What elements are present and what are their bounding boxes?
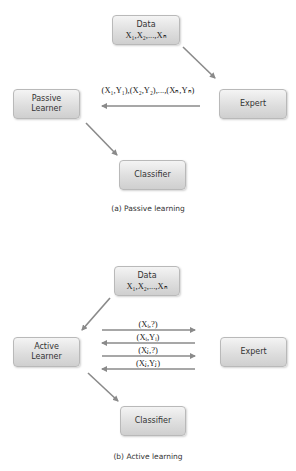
arrow-data-to-expert [183,47,215,78]
classifier-label: Classifier [135,416,172,426]
passive-data-box: Data X₁,X₂,...,Xₙ [112,15,180,45]
arrow-data-to-learner [82,298,110,330]
passive-caption: (a) Passive learning [0,204,296,213]
diagram-canvas: Data X₁,X₂,...,Xₙ (X₁,Y₁),(X₂,Y₂),...,(X… [0,0,296,471]
learner-line2: Learner [31,352,62,362]
data-values: X₁,X₂,...,Xₙ [126,281,167,291]
active-data-box: Data X₁,X₂,...,Xₙ [114,266,180,296]
arrow-learner-to-classifier-active [88,373,118,401]
active-expert-box: Expert [220,337,287,367]
exchange-label-1: (Xᵢ,?) [120,319,176,329]
expert-label: Expert [240,347,266,357]
learner-line1: Passive [32,94,62,104]
arrows-layer [0,0,296,471]
data-title: Data [136,20,155,30]
passive-expert-box: Expert [219,89,287,119]
exchange-label-4: (Xⱼ,Yⱼ) [120,358,176,368]
active-classifier-box: Classifier [120,406,186,436]
exchange-label-2: (Xᵢ,Yᵢ) [120,332,176,342]
passive-learner-box: Passive Learner [13,89,80,119]
learner-line2: Learner [31,104,62,114]
classifier-label: Classifier [134,170,171,180]
learner-line1: Active [34,342,59,352]
exchange-label-3: (Xⱼ,?) [120,345,176,355]
active-caption: (b) Active learning [0,452,296,461]
labeled-pairs-label: (X₁,Y₁),(X₂,Y₂),...,(Xₙ,Yₙ) [92,85,204,95]
data-title: Data [137,271,156,281]
arrow-learner-to-classifier [86,123,117,155]
passive-classifier-box: Classifier [119,160,186,190]
expert-label: Expert [240,99,266,109]
data-values: X₁,X₂,...,Xₙ [125,30,166,40]
active-learner-box: Active Learner [13,337,80,367]
